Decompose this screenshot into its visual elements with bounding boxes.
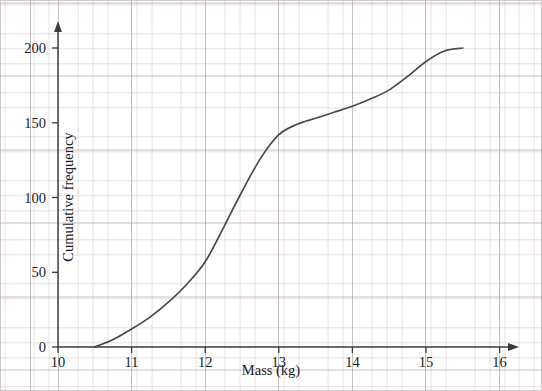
x-axis-ticks <box>58 347 500 353</box>
y-axis-arrowhead <box>54 21 62 32</box>
x-tick-label-12: 12 <box>198 354 213 371</box>
y-tick-label-100: 100 <box>16 189 46 206</box>
plot-area <box>0 0 542 391</box>
y-tick-label-0: 0 <box>16 339 46 356</box>
x-tick-label-10: 10 <box>51 354 66 371</box>
cumulative-frequency-chart: 0 50 100 150 200 10 11 12 13 14 15 16 Ma… <box>0 0 542 391</box>
x-axis-title: Mass (kg) <box>242 362 300 379</box>
x-axis-arrowhead <box>508 343 519 351</box>
x-tick-label-14: 14 <box>345 354 360 371</box>
x-tick-label-15: 15 <box>419 354 434 371</box>
y-tick-label-50: 50 <box>16 264 46 281</box>
y-tick-label-200: 200 <box>16 40 46 57</box>
y-tick-label-150: 150 <box>16 114 46 131</box>
cumulative-frequency-curve <box>95 48 463 347</box>
x-tick-label-11: 11 <box>125 354 139 371</box>
y-axis-ticks <box>52 48 58 347</box>
x-tick-label-16: 16 <box>492 354 507 371</box>
y-axis-title: Cumulative frequency <box>60 132 77 261</box>
